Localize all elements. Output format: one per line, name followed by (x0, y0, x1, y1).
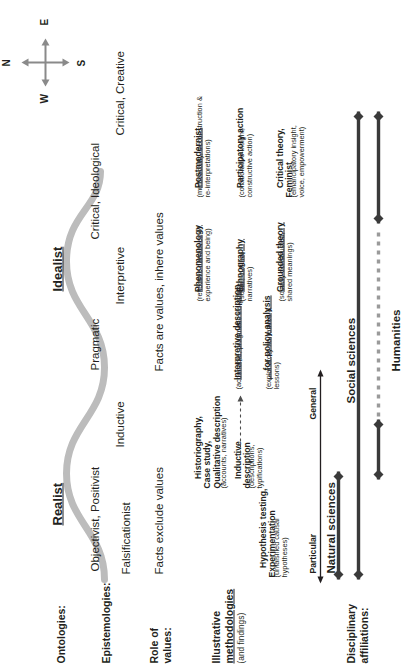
compass-label-south: S (75, 59, 86, 66)
discipline-label-humanities: Humanities (389, 309, 402, 371)
compass-label-north: N (0, 59, 11, 66)
discipline-label-social-sciences: Social sciences (344, 317, 357, 403)
compass-label-west: W (38, 94, 49, 103)
figure-canvas: Ontologies: Epistemologies: Role of valu… (0, 0, 409, 671)
discipline-label-natural-sciences: Natural sciences (324, 482, 337, 573)
compass-rose-icon (14, 31, 76, 93)
bar-humanities (373, 111, 383, 479)
compass-label-east: E (38, 18, 49, 25)
